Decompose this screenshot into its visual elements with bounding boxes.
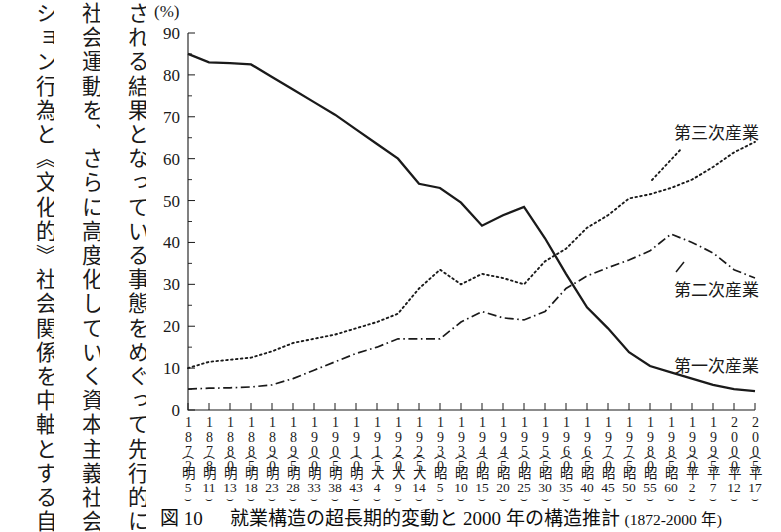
x-axis-tick-label-group: 2005⌒平17⌣: [747, 415, 763, 503]
x-axis-tick-label-group: 1990⌒平2⌣: [684, 415, 700, 503]
x-axis-era-label: 昭: [495, 467, 511, 481]
vertical-text-column-2: 社会運動を、さらに高度化していく資本主義社会: [54, 0, 100, 532]
x-axis-era-label: 昭: [537, 467, 553, 481]
x-axis-tick-label-group: 1878⌒明11⌣: [201, 415, 217, 503]
x-axis-year-label: 1945: [496, 415, 510, 459]
x-axis-year-label: 1995: [706, 415, 720, 459]
x-axis-era-label: 明: [180, 467, 196, 481]
x-axis-era-label: 昭: [432, 467, 448, 481]
x-axis-tick-label-group: 1985⌒昭60⌣: [663, 415, 679, 503]
x-axis-era-label: 明: [264, 467, 280, 481]
x-axis-era-label: 昭: [453, 467, 469, 481]
x-axis-year-label: 1985: [664, 415, 678, 459]
caption-year-range: (1872-2000 年): [625, 511, 722, 528]
x-axis-tick-label-group: 1890⌒明23⌣: [264, 415, 280, 503]
x-axis-tick-label-group: 1955⌒昭30⌣: [537, 415, 553, 503]
x-axis-tick-label-group: 1930⌒昭5⌣: [432, 415, 448, 503]
x-axis-era-label: 明: [327, 467, 343, 481]
vertical-body-text: される結果となっている事態をめぐって先行的に 社会運動を、さらに高度化していく資…: [0, 0, 146, 532]
x-axis-year-label: 1920: [391, 415, 405, 459]
x-axis-tick-label-group: 1945⌒昭20⌣: [495, 415, 511, 503]
x-axis-tick-label-group: 1980⌒昭55⌣: [642, 415, 658, 503]
x-axis-era-label: 昭: [600, 467, 616, 481]
vertical-text-column-1: される結果となっている事態をめぐって先行的に: [100, 0, 146, 532]
caption-figure-number: 図 10: [160, 508, 203, 529]
x-axis-tick-label-group: 1915⌒大4⌣: [369, 415, 385, 503]
x-axis-tick-label-stack: 1872⌒明5⌣1878⌒明11⌣1880⌒明13⌣1885⌒明18⌣1890⌒…: [146, 0, 781, 532]
x-axis-era-label: 昭: [516, 467, 532, 481]
x-axis-era-label: 昭: [642, 467, 658, 481]
x-axis-era-label: 昭: [558, 467, 574, 481]
x-axis-year-label: 2000: [727, 415, 741, 459]
vertical-text-column-3: ション行為と《文化的》社会関係を中軸とする自: [8, 0, 54, 532]
x-axis-tick-label-group: 1895⌒明28⌣: [285, 415, 301, 503]
figure-chart: (%) 0102030405060708090 第三次産業 第二次産業 第一次産…: [146, 0, 781, 532]
x-axis-era-label: 昭: [663, 467, 679, 481]
x-axis-era-label: 昭: [621, 467, 637, 481]
x-axis-year-label: 1895: [286, 415, 300, 459]
x-axis-tick-label-group: 1950⌒昭25⌣: [516, 415, 532, 503]
x-axis-tick-label-group: 2000⌒平12⌣: [726, 415, 742, 503]
x-axis-year-label: 1910: [349, 415, 363, 459]
x-axis-year-label: 1935: [454, 415, 468, 459]
x-axis-year-label: 2005: [748, 415, 762, 459]
x-axis-year-label: 1885: [244, 415, 258, 459]
x-axis-tick-label-group: 1960⌒昭35⌣: [558, 415, 574, 503]
x-axis-year-label: 1940: [475, 415, 489, 459]
x-axis-era-label: 昭: [579, 467, 595, 481]
x-axis-era-label: 平: [684, 467, 700, 481]
x-axis-era-label: 昭: [474, 467, 490, 481]
figure-caption: 図 10 就業構造の超長期的変動と 2000 年の構造推計 (1872-2000…: [160, 503, 781, 530]
x-axis-tick-label-group: 1995⌒平7⌣: [705, 415, 721, 503]
x-axis-year-label: 1990: [685, 415, 699, 459]
x-axis-era-label: 明: [348, 467, 364, 481]
x-axis-year-label: 1925: [412, 415, 426, 459]
x-axis-year-label: 1872: [181, 415, 195, 459]
x-axis-era-label: 大: [411, 467, 427, 481]
x-axis-era-label: 明: [201, 467, 217, 481]
x-axis-era-label: 平: [747, 467, 763, 481]
x-axis-tick-label-group: 1970⌒昭45⌣: [600, 415, 616, 503]
x-axis-era-label: 明: [306, 467, 322, 481]
x-axis-tick-label-group: 1900⌒明33⌣: [306, 415, 322, 503]
x-axis-year-label: 1930: [433, 415, 447, 459]
x-axis-tick-label-group: 1935⌒昭10⌣: [453, 415, 469, 503]
x-axis-tick-label-group: 1872⌒明5⌣: [180, 415, 196, 503]
x-axis-year-label: 1955: [538, 415, 552, 459]
x-axis-era-label: 大: [369, 467, 385, 481]
x-axis-tick-label-group: 1940⌒昭15⌣: [474, 415, 490, 503]
x-axis-year-label: 1980: [643, 415, 657, 459]
x-axis-year-label: 1970: [601, 415, 615, 459]
x-axis-tick-label-group: 1885⌒明18⌣: [243, 415, 259, 503]
x-axis-year-label: 1900: [307, 415, 321, 459]
x-axis-year-label: 1960: [559, 415, 573, 459]
x-axis-year-label: 1878: [202, 415, 216, 459]
caption-title: 就業構造の超長期的変動と 2000 年の構造推計: [230, 508, 620, 529]
x-axis-era-label: 平: [726, 467, 742, 481]
x-axis-year-label: 1890: [265, 415, 279, 459]
x-axis-year-label: 1950: [517, 415, 531, 459]
x-axis-tick-label-group: 1880⌒明13⌣: [222, 415, 238, 503]
x-axis-year-label: 1965: [580, 415, 594, 459]
x-axis-tick-label-group: 1920⌒大9⌣: [390, 415, 406, 503]
x-axis-tick-label-group: 1910⌒明43⌣: [348, 415, 364, 503]
x-axis-year-label: 1975: [622, 415, 636, 459]
x-axis-era-label: 平: [705, 467, 721, 481]
x-axis-year-label: 1905: [328, 415, 342, 459]
x-axis-tick-label-group: 1975⌒昭50⌣: [621, 415, 637, 503]
x-axis-year-label: 1880: [223, 415, 237, 459]
x-axis-tick-label-group: 1965⌒昭40⌣: [579, 415, 595, 503]
x-axis-year-label: 1915: [370, 415, 384, 459]
x-axis-era-label: 明: [243, 467, 259, 481]
x-axis-era-label: 大: [390, 467, 406, 481]
x-axis-era-label: 明: [222, 467, 238, 481]
x-axis-tick-label-group: 1925⌒大14⌣: [411, 415, 427, 503]
x-axis-tick-label-group: 1905⌒明38⌣: [327, 415, 343, 503]
x-axis-era-label: 明: [285, 467, 301, 481]
